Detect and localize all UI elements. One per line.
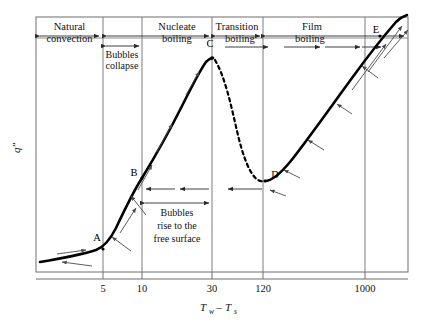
point-label-E: E <box>373 24 379 35</box>
bubbles-rise-line1: Bubbles <box>161 207 194 218</box>
y-axis-title: q″ <box>10 143 22 154</box>
bubbles-rise-line3: free surface <box>154 233 201 244</box>
point-marker-C <box>210 56 214 60</box>
point-marker-B <box>140 176 143 179</box>
x-axis-sub-s: s <box>234 307 237 316</box>
x-axis-minus: – <box>215 301 222 313</box>
tick-label-30: 30 <box>207 283 218 294</box>
region-label-bubbles-collapse: Bubbles collapse <box>106 46 139 71</box>
region-nucleate-boiling-line2: boiling <box>162 33 193 44</box>
region-natural-convection-line1: Natural <box>54 21 86 32</box>
region-film-boiling-line1: Film <box>302 21 322 32</box>
region-nucleate-boiling-line1: Nucleate <box>158 21 196 32</box>
point-marker-D <box>263 179 266 182</box>
y-axis-title-label: q″ <box>10 143 22 154</box>
tick-label-5: 5 <box>100 283 105 294</box>
region-film-boiling-line2: boiling <box>295 33 326 44</box>
x-axis-title-Tw: T <box>200 301 207 313</box>
region-natural-convection-line2: convection <box>46 33 93 44</box>
region-transition-boiling-line1: Transition <box>216 21 260 32</box>
region-transition-boiling-line2: boiling <box>225 33 256 44</box>
boiling-curve-figure: Natural convection Bubbles collapse Nucl… <box>0 0 424 320</box>
x-axis-title-Ts: T <box>225 301 232 313</box>
point-label-A: A <box>93 232 101 243</box>
bubbles-rise-line2: rise to the <box>157 220 197 231</box>
region-bubbles-collapse-line1: Bubbles <box>106 49 139 60</box>
tick-label-1000: 1000 <box>355 283 376 294</box>
point-label-D: D <box>271 169 279 180</box>
point-label-C: C <box>206 38 213 49</box>
region-bubbles-collapse-line2: collapse <box>106 60 139 71</box>
tick-label-120: 120 <box>255 283 271 294</box>
point-label-B: B <box>130 167 137 178</box>
tick-label-10: 10 <box>137 283 148 294</box>
x-axis-sub-w: w <box>209 307 214 316</box>
point-marker-A <box>101 247 104 250</box>
